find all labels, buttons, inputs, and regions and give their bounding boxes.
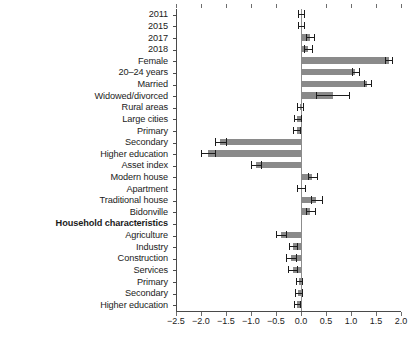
error-bar-line xyxy=(304,49,312,50)
category-label: 2011 xyxy=(0,9,172,19)
bar-row xyxy=(176,265,401,276)
bar-row xyxy=(176,55,401,66)
error-bar-cap xyxy=(322,196,323,203)
category-label: Industry xyxy=(0,242,172,252)
error-bar-cap xyxy=(306,34,307,41)
error-bar-line xyxy=(251,165,261,166)
y-axis-tick xyxy=(173,224,176,225)
x-axis-tick-top xyxy=(376,4,377,8)
bar-row xyxy=(176,67,401,78)
bar-row xyxy=(176,288,401,299)
error-bar-line xyxy=(364,84,371,85)
error-bar-cap xyxy=(304,10,305,17)
category-label: Higher education xyxy=(0,300,172,310)
error-bar-line xyxy=(276,235,286,236)
error-bar-cap xyxy=(349,92,350,99)
error-bar-line xyxy=(295,293,302,294)
error-bar-cap xyxy=(226,138,227,145)
error-bar-cap xyxy=(215,150,216,157)
error-bar-cap xyxy=(296,254,297,261)
bar-row xyxy=(176,79,401,90)
bar-row xyxy=(176,172,401,183)
error-bar-line xyxy=(352,72,359,73)
x-axis-tick-label: 2.0 xyxy=(381,316,412,326)
error-bar-cap xyxy=(352,68,353,75)
error-bar-line xyxy=(316,95,349,96)
error-bar-cap xyxy=(201,150,202,157)
bar-row xyxy=(176,253,401,264)
error-bar-line xyxy=(215,142,226,143)
error-bar-cap xyxy=(296,278,297,285)
error-bar-line xyxy=(288,270,297,271)
bar-row xyxy=(176,230,401,241)
category-label: 2017 xyxy=(0,33,172,43)
x-axis-tick-top xyxy=(326,4,327,8)
error-bar-line xyxy=(306,37,314,38)
bar-row xyxy=(176,21,401,32)
error-bar-cap xyxy=(305,185,306,192)
bar xyxy=(208,150,301,156)
category-label: Widowed/divorced xyxy=(0,91,172,101)
error-bar-cap xyxy=(304,22,305,29)
error-bar-cap xyxy=(315,208,316,215)
error-bar-cap xyxy=(301,115,302,122)
error-bar-cap xyxy=(286,231,287,238)
category-label: Secondary xyxy=(0,288,172,298)
category-label: Large cities xyxy=(0,114,172,124)
category-label: Agriculture xyxy=(0,230,172,240)
bar-row xyxy=(176,160,401,171)
bar xyxy=(301,57,389,63)
error-bar-cap xyxy=(300,127,301,134)
error-bar-cap xyxy=(294,115,295,122)
error-bar-cap xyxy=(300,301,301,308)
x-axis-line xyxy=(176,311,401,312)
error-bar-cap xyxy=(276,231,277,238)
error-bar-cap xyxy=(364,80,365,87)
category-label: Services xyxy=(0,265,172,275)
error-bar-cap xyxy=(298,22,299,29)
error-bar-cap xyxy=(316,92,317,99)
error-bar-cap xyxy=(302,289,303,296)
error-bar-cap xyxy=(314,34,315,41)
error-bar-cap xyxy=(297,185,298,192)
bar-row xyxy=(176,90,401,101)
error-bar-line xyxy=(306,211,315,212)
error-bar-cap xyxy=(304,45,305,52)
error-bar-line xyxy=(311,200,322,201)
error-bar-cap xyxy=(297,103,298,110)
error-bar-cap xyxy=(215,138,216,145)
error-bar-line xyxy=(286,258,296,259)
bar xyxy=(220,139,301,145)
category-label: Bidonville xyxy=(0,207,172,217)
category-label: Traditional house xyxy=(0,195,172,205)
bar xyxy=(301,81,367,87)
x-axis-tick-top xyxy=(251,4,252,8)
error-bar-cap xyxy=(289,243,290,250)
category-label: Asset index xyxy=(0,160,172,170)
x-axis-tick-top xyxy=(276,4,277,8)
x-axis-tick-top xyxy=(176,4,177,8)
bar-row xyxy=(176,32,401,43)
bar-row xyxy=(176,9,401,20)
error-bar-cap xyxy=(371,80,372,87)
bar xyxy=(301,69,355,75)
category-label: Modern house xyxy=(0,172,172,182)
bar-row xyxy=(176,44,401,55)
category-label: Rural areas xyxy=(0,102,172,112)
bar-row xyxy=(176,241,401,252)
error-bar-cap xyxy=(306,208,307,215)
x-axis-tick-top xyxy=(401,4,402,8)
error-bar-cap xyxy=(303,103,304,110)
category-label: Construction xyxy=(0,253,172,263)
category-label: 20–24 years xyxy=(0,67,172,77)
error-bar-cap xyxy=(385,57,386,64)
error-bar-cap xyxy=(302,278,303,285)
bar-row xyxy=(176,276,401,287)
error-bar-cap xyxy=(297,243,298,250)
error-bar-cap xyxy=(298,10,299,17)
category-label: Secondary xyxy=(0,137,172,147)
category-label: Primary xyxy=(0,277,172,287)
category-label: Primary xyxy=(0,126,172,136)
category-label: Apartment xyxy=(0,184,172,194)
